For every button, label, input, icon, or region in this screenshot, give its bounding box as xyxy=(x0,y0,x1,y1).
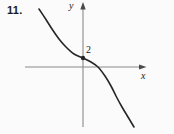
y-intercept-label: 2 xyxy=(86,44,91,55)
graph-canvas xyxy=(0,0,174,134)
x-axis-arrow-icon xyxy=(139,64,147,69)
textbook-figure: 11. y x 2 xyxy=(0,0,174,134)
y-axis-arrow-icon xyxy=(80,2,85,10)
x-axis-label: x xyxy=(141,70,145,81)
y-axis-label: y xyxy=(69,0,73,11)
function-curve xyxy=(39,9,134,127)
y-intercept-dot xyxy=(81,56,85,60)
